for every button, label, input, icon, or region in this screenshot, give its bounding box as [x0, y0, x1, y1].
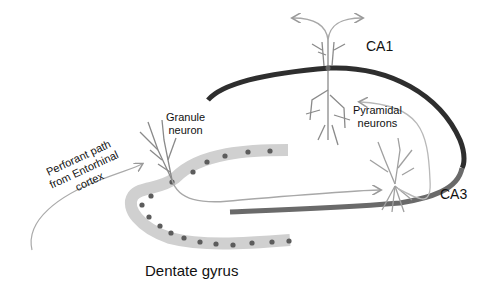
- granule-neuron-label: Granule neuron: [166, 111, 205, 137]
- dentate-gyrus-label: Dentate gyrus: [145, 262, 238, 279]
- ca3-label: CA3: [440, 186, 467, 202]
- hippocampus-diagram: CA1 CA3 Granule neuron Pyramidal neurons…: [0, 0, 489, 289]
- diagram-canvas: [0, 0, 489, 289]
- ca1-pyramidal-neuron: [293, 18, 362, 145]
- pyramidal-neurons-label: Pyramidal neurons: [353, 104, 402, 130]
- ca1-label: CA1: [366, 38, 393, 54]
